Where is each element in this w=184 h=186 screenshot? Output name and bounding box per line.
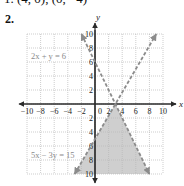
inequality-graph: xy−10−8−6−4−22468101086422468100	[0, 0, 184, 186]
x-tick-label: −2	[77, 107, 86, 116]
x-tick-label: −6	[50, 107, 59, 116]
y-tick-label: 2	[89, 114, 93, 123]
x-axis-label: x	[178, 99, 183, 109]
equation-label-line-1: 2x + y = 6	[29, 51, 68, 61]
y-tick-label: 8	[89, 156, 93, 165]
x-tick-label: 8	[147, 107, 151, 116]
y-tick-label: 4	[89, 128, 93, 137]
x-tick-label: 10	[159, 107, 167, 116]
y-axis-label: y	[95, 12, 100, 22]
origin-label: 0	[98, 107, 102, 116]
y-tick-label: 2	[89, 86, 93, 95]
y-tick-label: 10	[85, 170, 93, 179]
x-tick-label: 6	[134, 107, 138, 116]
equation-label-line-2: 5x − 3y = 15	[31, 150, 75, 160]
x-tick-label: −4	[64, 107, 73, 116]
x-tick-label: −10	[21, 107, 34, 116]
y-tick-label: 10	[85, 30, 93, 39]
x-tick-label: −8	[36, 107, 45, 116]
y-tick-label: 6	[89, 58, 93, 67]
y-tick-label: 4	[89, 72, 93, 81]
